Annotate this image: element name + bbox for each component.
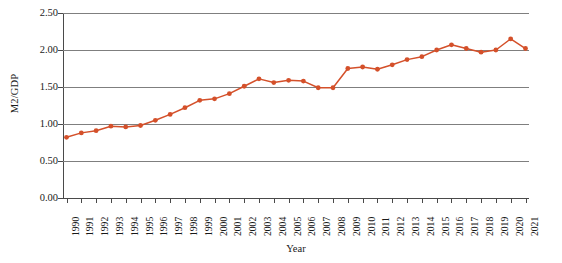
data-point-1998	[183, 105, 188, 110]
x-tick-label-2019: 2019	[500, 217, 510, 236]
y-tickmark-2.00	[58, 50, 63, 51]
x-tick-label-2018: 2018	[485, 217, 495, 236]
x-tickmark-1996	[155, 198, 156, 203]
y-tickmark-1.00	[58, 124, 63, 125]
data-point-2019	[493, 48, 498, 53]
x-tick-label-1994: 1994	[130, 217, 140, 236]
x-tickmark-1999	[200, 198, 201, 203]
x-tickmark-2004	[274, 198, 275, 203]
x-tickmark-1995	[141, 198, 142, 203]
x-tickmark-2015	[437, 198, 438, 203]
x-tick-label-2021: 2021	[530, 217, 540, 236]
data-point-1994	[123, 125, 128, 130]
data-point-2011	[375, 67, 380, 72]
x-tick-label-2010: 2010	[367, 217, 377, 236]
x-axis-tick-labels: 1990199119921993199419951996199719981999…	[63, 204, 529, 238]
x-tickmark-2014	[422, 198, 423, 203]
x-tick-label-1997: 1997	[174, 217, 184, 236]
x-tick-label-2005: 2005	[293, 217, 303, 236]
x-tick-label-1993: 1993	[115, 217, 125, 236]
data-point-2008	[331, 85, 336, 90]
y-tickmark-2.50	[58, 13, 63, 14]
y-tick-label-2.00: 2.00	[16, 45, 58, 55]
x-tick-label-2017: 2017	[470, 217, 480, 236]
plot-area	[63, 13, 529, 198]
x-tickmark-2012	[392, 198, 393, 203]
x-tickmark-2020	[511, 198, 512, 203]
x-tickmark-2008	[333, 198, 334, 203]
x-tick-label-1996: 1996	[159, 217, 169, 236]
data-point-1990	[64, 135, 69, 140]
y-tickmark-0.00	[58, 198, 63, 199]
x-tickmark-2003	[259, 198, 260, 203]
x-tickmark-2017	[466, 198, 467, 203]
data-point-2001	[227, 91, 232, 96]
y-tickmark-0.50	[58, 161, 63, 162]
x-tickmark-2001	[229, 198, 230, 203]
data-point-2002	[242, 84, 247, 89]
x-tick-label-1992: 1992	[100, 217, 110, 236]
data-point-2015	[434, 48, 439, 53]
x-tickmark-1997	[170, 198, 171, 203]
data-point-1996	[153, 118, 158, 123]
x-axis-title: Year	[63, 243, 529, 254]
x-tick-label-2001: 2001	[233, 217, 243, 236]
x-tickmark-2010	[363, 198, 364, 203]
data-point-2000	[212, 96, 217, 101]
x-tick-label-1998: 1998	[189, 217, 199, 236]
x-tick-label-2020: 2020	[515, 217, 525, 236]
x-tickmark-2005	[289, 198, 290, 203]
x-tick-label-1999: 1999	[204, 217, 214, 236]
x-tick-label-2014: 2014	[426, 217, 436, 236]
data-point-2012	[390, 62, 395, 67]
y-tick-label-1.50: 1.50	[16, 82, 58, 92]
data-point-1992	[94, 128, 99, 133]
x-tickmark-1994	[126, 198, 127, 203]
data-point-2013	[405, 57, 410, 62]
data-point-2017	[464, 46, 469, 51]
data-point-2020	[508, 37, 513, 42]
x-tick-label-1995: 1995	[145, 217, 155, 236]
x-tick-label-2002: 2002	[248, 217, 258, 236]
data-point-1993	[109, 124, 114, 129]
x-tickmark-2018	[481, 198, 482, 203]
x-tickmark-1990	[67, 198, 68, 203]
x-tick-label-2011: 2011	[381, 217, 391, 236]
x-tick-label-2008: 2008	[337, 217, 347, 236]
chart-container: M2/GDP 0.000.501.001.502.002.50 19901991…	[0, 0, 562, 263]
y-tick-label-0.50: 0.50	[16, 156, 58, 166]
x-tick-label-2009: 2009	[352, 217, 362, 236]
series-markers	[64, 37, 528, 140]
x-tick-label-2015: 2015	[441, 217, 451, 236]
x-tick-label-1991: 1991	[85, 217, 95, 236]
x-tickmark-2016	[451, 198, 452, 203]
data-point-2004	[271, 80, 276, 85]
series-polyline	[67, 39, 526, 137]
x-tick-label-2004: 2004	[278, 217, 288, 236]
x-tickmark-2021	[526, 198, 527, 203]
data-point-1995	[138, 123, 143, 128]
x-tickmark-2002	[244, 198, 245, 203]
series-line-m2-gdp	[63, 13, 529, 198]
data-point-1999	[197, 98, 202, 103]
x-tickmark-1998	[185, 198, 186, 203]
y-tick-label-2.50: 2.50	[16, 8, 58, 18]
data-point-2014	[419, 54, 424, 59]
data-point-2005	[286, 78, 291, 83]
x-tickmark-2013	[407, 198, 408, 203]
x-tick-label-2006: 2006	[307, 217, 317, 236]
data-point-2007	[316, 85, 321, 90]
x-tick-label-2016: 2016	[455, 217, 465, 236]
x-tickmark-1992	[96, 198, 97, 203]
x-tick-label-2013: 2013	[411, 217, 421, 236]
x-tickmark-2009	[348, 198, 349, 203]
x-tickmark-2007	[318, 198, 319, 203]
x-tick-label-2000: 2000	[219, 217, 229, 236]
data-point-2003	[257, 76, 262, 81]
x-tick-label-2007: 2007	[322, 217, 332, 236]
data-point-2018	[479, 50, 484, 55]
x-tick-label-2003: 2003	[263, 217, 273, 236]
y-tickmark-1.50	[58, 87, 63, 88]
y-axis-tick-labels: 0.000.501.001.502.002.50	[14, 0, 58, 263]
x-tickmark-2019	[496, 198, 497, 203]
